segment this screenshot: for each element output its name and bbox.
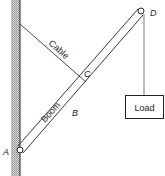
cable bbox=[20, 24, 86, 82]
pin-d-icon bbox=[138, 8, 144, 14]
point-b-label: B bbox=[72, 108, 78, 118]
point-d-label: D bbox=[150, 8, 157, 18]
pin-a-icon bbox=[17, 147, 23, 153]
boom-cable-diagram: Cable Boom Load A B C D bbox=[0, 0, 165, 176]
point-c-label: C bbox=[84, 69, 91, 79]
point-a-label: A bbox=[2, 147, 9, 157]
boom bbox=[18, 9, 143, 153]
cable-label: Cable bbox=[47, 38, 71, 61]
load-box: Load bbox=[126, 96, 164, 119]
load-label: Load bbox=[134, 103, 154, 113]
